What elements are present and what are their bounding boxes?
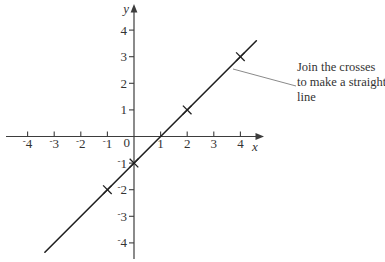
x-tick-label: 3 [211,136,218,151]
y-axis-letter: y [121,1,129,16]
x-tick-label: -4 [23,136,33,151]
x-tick-label: 4 [237,136,244,151]
figure: -4-3-2-112344321-1-2-3-40yx Join the cro… [0,0,385,262]
annotation-line: to make a straight [297,75,385,90]
x-tick-label: -2 [76,136,86,151]
x-tick-label: -1 [103,136,113,151]
y-tick-label: 1 [121,102,128,117]
leader-line [233,69,296,86]
coordinate-plane: -4-3-2-112344321-1-2-3-40yx [0,0,385,262]
y-axis-arrowhead [131,4,138,13]
x-tick-label: -3 [49,136,59,151]
x-tick-label: 2 [184,136,191,151]
y-tick-label: -4 [118,235,128,250]
annotation-line: line [297,90,385,105]
annotation-text: Join the crosses to make a straight line [297,60,385,105]
x-axis-letter: x [251,139,258,154]
annotation-line: Join the crosses [297,60,385,75]
plotted-line [45,41,256,252]
y-tick-label: 2 [121,76,128,91]
y-tick-label: -3 [118,209,128,224]
y-tick-label: -2 [118,182,128,197]
y-tick-label: -1 [118,156,128,171]
y-tick-label: 4 [121,23,128,38]
y-tick-label: 3 [121,49,128,64]
origin-label: 0 [124,135,131,150]
